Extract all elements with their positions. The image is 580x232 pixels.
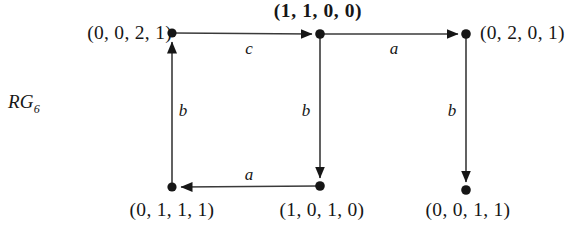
arc-c-top-left-to-middle: [174, 33, 312, 34]
node-label-bottom-middle: (1, 0, 1, 0): [280, 200, 365, 220]
arc-label-a-bottom-middle-to-bottom-left: a: [245, 166, 254, 183]
figure-name-label: RG6: [8, 92, 40, 115]
node-label-top-left: (0, 0, 2, 1): [87, 23, 172, 43]
node-dot-top-middle[interactable]: [315, 29, 325, 39]
node-label-bottom-left: (0, 1, 1, 1): [130, 200, 215, 220]
arc-a-bottom-middle-to-bottom-left: [181, 186, 318, 187]
node-dot-bottom-middle[interactable]: [315, 181, 325, 191]
node-dot-bottom-left[interactable]: [167, 182, 176, 191]
arc-label-b-top-middle-to-bottom-middle: b: [302, 102, 311, 119]
reachability-graph-figure: RG6 (0, 0, 2, 1) (1, 1, 0, 0) (0, 2, 0, …: [0, 0, 580, 232]
node-dot-top-right[interactable]: [461, 29, 471, 39]
arc-label-b-bottom-left-to-top-left: b: [179, 102, 188, 119]
node-dot-bottom-right[interactable]: [461, 185, 471, 195]
arc-label-a-top-middle-to-right: a: [390, 40, 399, 57]
figure-name-main: RG: [8, 91, 34, 112]
node-label-top-middle: (1, 1, 0, 0): [274, 1, 362, 21]
node-label-bottom-right: (0, 0, 1, 1): [426, 200, 511, 220]
node-label-top-right: (0, 2, 0, 1): [480, 23, 565, 43]
arc-label-c-top-left-to-middle: c: [245, 40, 253, 57]
figure-name-subscript: 6: [34, 102, 40, 116]
arc-label-b-top-right-to-bottom-right: b: [448, 102, 457, 119]
